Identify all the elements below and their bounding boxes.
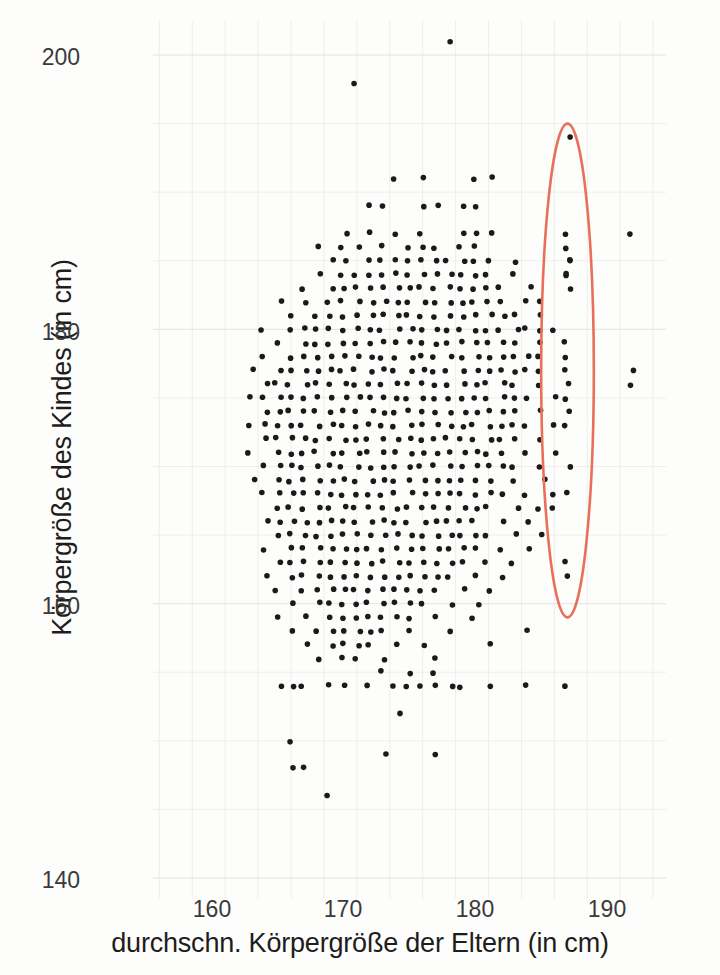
- plot-canvas: [0, 0, 720, 975]
- scatter-plot-figure: Körpergröße des Kindes (in cm) durchschn…: [0, 0, 720, 975]
- gridlines: [153, 21, 667, 899]
- data-points: [245, 39, 636, 798]
